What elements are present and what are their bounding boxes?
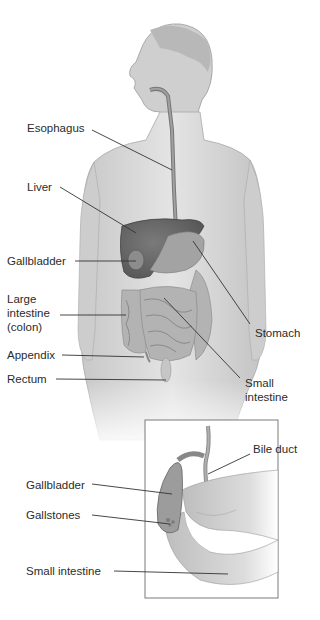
label-liver: Liver [27, 180, 52, 194]
inset-label-gallbladder: Gallbladder [26, 478, 85, 492]
label-gallbladder: Gallbladder [7, 254, 66, 268]
inset-label-small-intestine: Small intestine [26, 564, 101, 578]
label-large-intestine-line-3: (colon) [7, 320, 67, 334]
label-esophagus: Esophagus [27, 121, 85, 135]
label-large-intestine-line-2: intestine [7, 306, 67, 320]
label-small-intestine: Small intestine [245, 376, 305, 404]
label-small-intestine-line-1: Small [245, 376, 305, 390]
inset-label-gallstones: Gallstones [26, 508, 80, 522]
label-appendix: Appendix [7, 348, 55, 362]
label-large-intestine: Large intestine (colon) [7, 292, 67, 334]
label-large-intestine-line-1: Large [7, 292, 67, 306]
label-small-intestine-line-2: intestine [245, 390, 305, 404]
label-stomach: Stomach [255, 326, 300, 340]
inset-label-bile-duct: Bile duct [253, 442, 297, 456]
label-rectum: Rectum [7, 372, 47, 386]
human-figure [78, 24, 266, 450]
